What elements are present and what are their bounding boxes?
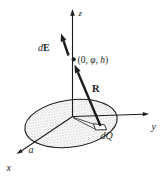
charged-disk-field-diagram: z (0, φ, h) dE R dQ y x a: [0, 0, 162, 180]
dE-vector-arrowhead: [61, 34, 67, 43]
field-point-dot: [72, 57, 76, 61]
y-axis-arrowhead: [143, 112, 149, 116]
field-point-label: (0, φ, h): [78, 55, 109, 66]
y-axis-label: y: [151, 121, 157, 132]
R-vector-label: R: [92, 83, 100, 94]
disk-radius-label: a: [29, 144, 34, 155]
dE-vector-shaft: [64, 41, 69, 55]
x-axis-label: x: [6, 162, 12, 173]
R-vector-arrowhead: [75, 65, 81, 74]
dQ-label: dQ: [101, 130, 114, 141]
x-axis-arrowhead: [17, 149, 23, 154]
charged-disk: [22, 94, 121, 153]
physics-diagram-figure: z (0, φ, h) dE R dQ y x a: [0, 0, 162, 180]
z-axis-label: z: [78, 8, 83, 18]
z-axis-arrowhead: [70, 9, 75, 16]
dE-vector-label: dE: [38, 42, 50, 53]
